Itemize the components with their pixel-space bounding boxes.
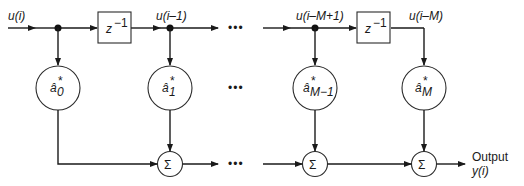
sum-node-m-1: Σ	[303, 152, 328, 177]
svg-text:*: *	[170, 74, 175, 88]
delay-exponent: −1	[114, 16, 128, 30]
svg-text:Σ: Σ	[164, 158, 171, 172]
delay-label: z	[364, 22, 371, 36]
svg-text:â: â	[415, 81, 422, 95]
weight-0: â 0 *	[36, 66, 80, 110]
tap-label-m-1: u(i–M+1)	[296, 9, 344, 23]
filter-diagram: z −1 z −1 u(i) u(i–1) u(i–M+1) u(i–M) ••…	[0, 0, 524, 186]
delay-box-1: z −1	[98, 12, 131, 43]
tap-label-m: u(i–M)	[409, 9, 443, 23]
svg-text:*: *	[58, 74, 63, 88]
weight-1: â 1 *	[148, 66, 192, 110]
output-label: Output	[472, 150, 509, 164]
delay-label: z	[105, 22, 112, 36]
sum-node-1: Σ	[158, 152, 183, 177]
input-label: u(i)	[8, 9, 25, 23]
tap-label-1: u(i–1)	[156, 9, 187, 23]
weight-m: â M *	[402, 66, 446, 110]
output-signal: y(i)	[471, 164, 489, 178]
ellipsis-bottom: •••	[228, 157, 244, 171]
svg-text:*: *	[423, 74, 428, 88]
ellipsis-middle: •••	[228, 81, 244, 95]
ellipsis-top: •••	[228, 21, 244, 35]
svg-text:*: *	[311, 74, 316, 88]
svg-text:Σ: Σ	[309, 158, 316, 172]
svg-text:â: â	[162, 81, 169, 95]
svg-text:Σ: Σ	[418, 158, 425, 172]
delay-exponent: −1	[373, 16, 387, 30]
weight-m-1: â M−1 *	[293, 66, 337, 110]
delay-box-2: z −1	[357, 12, 390, 43]
svg-text:â: â	[303, 81, 310, 95]
sum-node-m: Σ	[412, 152, 437, 177]
svg-text:â: â	[50, 81, 57, 95]
